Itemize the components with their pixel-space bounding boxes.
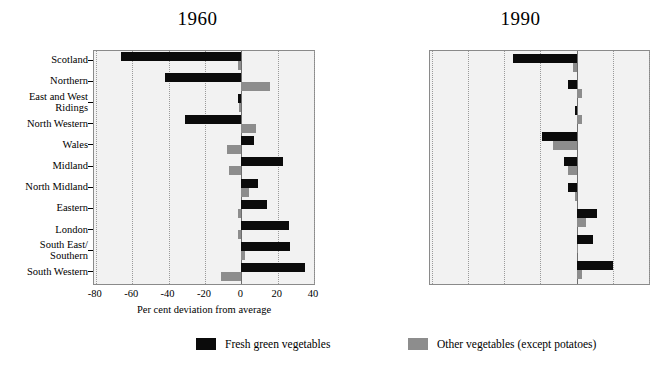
category-label: Northern xyxy=(0,75,88,86)
category-label: London xyxy=(0,224,88,235)
plot-area-1990 xyxy=(429,50,650,285)
bar-other-vegetables xyxy=(241,251,245,260)
bar-other-vegetables xyxy=(238,230,242,239)
category-label-line: North Midland xyxy=(0,181,88,192)
chart-row xyxy=(94,51,314,72)
bar-other-vegetables xyxy=(238,61,242,70)
gridline xyxy=(649,51,650,284)
x-tick-label: 40 xyxy=(293,288,333,299)
bar-fresh-green-vegetables xyxy=(568,183,577,192)
bar-other-vegetables xyxy=(241,82,270,91)
category-tick xyxy=(88,102,93,103)
plot-area-1960 xyxy=(93,50,315,285)
chart-row xyxy=(430,180,649,206)
category-label-line: East and West xyxy=(0,91,88,102)
panel-1990: 1990 ScotlandNorthernYorkshire andHumber… xyxy=(340,0,671,330)
category-tick xyxy=(88,166,93,167)
category-tick xyxy=(88,271,93,272)
bar-other-vegetables xyxy=(241,124,256,133)
chart-row xyxy=(94,199,314,220)
bar-other-vegetables xyxy=(239,103,241,112)
x-tick-label: -40 xyxy=(148,288,188,299)
bar-other-vegetables xyxy=(573,63,577,72)
chart-row xyxy=(94,220,314,241)
legend: Fresh green vegetables Other vegetables … xyxy=(0,338,671,360)
category-tick xyxy=(88,60,93,61)
x-tick-label: -20 xyxy=(184,288,224,299)
bar-fresh-green-vegetables xyxy=(241,200,266,209)
chart-row xyxy=(94,93,314,114)
legend-label-fresh: Fresh green vegetables xyxy=(225,338,330,350)
category-label-line: South East/ xyxy=(0,239,88,250)
bar-fresh-green-vegetables xyxy=(241,263,305,272)
bar-other-vegetables xyxy=(241,188,248,197)
bar-fresh-green-vegetables xyxy=(513,54,576,63)
x-tick-label: 0 xyxy=(220,288,260,299)
bar-other-vegetables xyxy=(577,270,582,279)
panel-title-1960: 1960 xyxy=(0,8,340,30)
category-label: Scotland xyxy=(0,54,88,65)
category-label: Wales xyxy=(0,139,88,150)
panel-title-1990: 1990 xyxy=(340,8,671,30)
category-label: South Western xyxy=(0,266,88,277)
category-tick xyxy=(88,208,93,209)
category-label-line: North Western xyxy=(0,118,88,129)
category-tick xyxy=(88,229,93,230)
bar-fresh-green-vegetables xyxy=(241,179,257,188)
chart-row xyxy=(430,77,649,103)
bar-fresh-green-vegetables xyxy=(542,132,576,141)
bar-other-vegetables xyxy=(577,244,579,253)
chart-row xyxy=(430,129,649,155)
chart-row xyxy=(94,157,314,178)
category-tick xyxy=(88,250,93,251)
category-label-line: South Western xyxy=(0,266,88,277)
gridline xyxy=(314,51,315,284)
bar-fresh-green-vegetables xyxy=(185,115,241,124)
chart-row xyxy=(430,51,649,77)
category-label-line: Midland xyxy=(0,160,88,171)
legend-item-other: Other vegetables (except potatoes) xyxy=(408,338,596,350)
bar-other-vegetables xyxy=(553,141,577,150)
category-tick xyxy=(88,187,93,188)
x-tick-label: -60 xyxy=(111,288,151,299)
bar-fresh-green-vegetables xyxy=(165,73,241,82)
chart-row xyxy=(94,242,314,263)
chart-row xyxy=(94,263,314,284)
legend-item-fresh: Fresh green vegetables xyxy=(196,338,330,350)
legend-label-other: Other vegetables (except potatoes) xyxy=(437,338,596,350)
bar-other-vegetables xyxy=(568,166,577,175)
bar-fresh-green-vegetables xyxy=(121,52,241,61)
category-tick xyxy=(88,144,93,145)
chart-row xyxy=(430,232,649,258)
bar-fresh-green-vegetables xyxy=(575,106,577,115)
chart-row xyxy=(430,103,649,129)
bar-fresh-green-vegetables xyxy=(564,157,577,166)
bar-fresh-green-vegetables xyxy=(577,235,593,244)
category-label: North Midland xyxy=(0,181,88,192)
bar-fresh-green-vegetables xyxy=(238,94,242,103)
bar-fresh-green-vegetables xyxy=(241,242,290,251)
bar-fresh-green-vegetables xyxy=(577,261,613,270)
category-label-line: Southern xyxy=(0,250,88,261)
category-label: Eastern xyxy=(0,202,88,213)
category-tick xyxy=(88,81,93,82)
chart-row xyxy=(430,258,649,284)
x-tick-label: -80 xyxy=(75,288,115,299)
legend-swatch-other-icon xyxy=(408,338,428,350)
x-axis-title-1960: Per cent deviation from average xyxy=(93,304,315,315)
category-label: North Western xyxy=(0,118,88,129)
legend-swatch-fresh-icon xyxy=(196,338,216,350)
bar-fresh-green-vegetables xyxy=(568,80,577,89)
category-label-line: Wales xyxy=(0,139,88,150)
category-label: East and WestRidings xyxy=(0,91,88,113)
category-tick xyxy=(88,123,93,124)
chart-sheet: 1960 ScotlandNorthernEast and WestRiding… xyxy=(0,0,671,375)
bar-other-vegetables xyxy=(221,272,241,281)
chart-row xyxy=(94,136,314,157)
category-label: South East/Southern xyxy=(0,239,88,261)
bar-other-vegetables xyxy=(577,89,582,98)
bar-other-vegetables xyxy=(229,166,242,175)
chart-row xyxy=(94,178,314,199)
chart-row xyxy=(430,206,649,232)
bar-other-vegetables xyxy=(577,115,582,124)
